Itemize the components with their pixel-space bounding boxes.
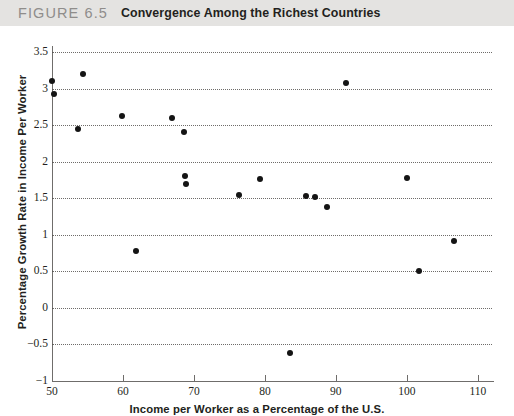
x-axis-tick-label: 110: [458, 386, 498, 398]
x-axis-title: Income per Worker as a Percentage of the…: [0, 403, 514, 415]
data-point: [324, 204, 330, 210]
data-point: [75, 126, 81, 132]
data-point: [257, 176, 263, 182]
x-axis-line: [52, 381, 494, 382]
x-axis-tick-mark: [336, 375, 337, 381]
x-axis-tick-mark: [265, 375, 266, 381]
x-axis-tick-label: 70: [174, 386, 214, 398]
gridline: [52, 162, 492, 164]
gridline: [52, 52, 492, 54]
plot-area: [52, 52, 492, 381]
gridline: [52, 271, 492, 273]
data-point: [451, 238, 457, 244]
data-point: [312, 194, 318, 200]
data-point: [182, 173, 188, 179]
y-axis-tick-label: −1: [14, 375, 48, 387]
y-axis-title: Percentage Growth Rate in Income Per Wor…: [16, 42, 28, 362]
data-point: [181, 129, 187, 135]
x-axis-tick-mark: [194, 375, 195, 381]
x-axis-tick-label: 100: [387, 386, 427, 398]
gridline: [52, 125, 492, 127]
scatter-chart: −1−0.500.511.522.533.5 5060708090100110 …: [0, 26, 514, 416]
data-point: [183, 181, 189, 187]
x-axis-tick-label: 80: [245, 386, 285, 398]
figure-caption-inner: FIGURE 6.5 Convergence Among the Richest…: [18, 0, 381, 26]
y-axis-tick-labels: −1−0.500.511.522.533.5: [8, 26, 48, 416]
figure-number-label: FIGURE 6.5: [18, 5, 108, 21]
gridline: [52, 198, 492, 200]
x-axis-tick-label: 50: [32, 386, 72, 398]
data-point: [343, 80, 349, 86]
data-point: [133, 248, 139, 254]
data-point: [51, 91, 57, 97]
data-point: [49, 78, 55, 84]
figure-caption-bar: FIGURE 6.5 Convergence Among the Richest…: [0, 0, 514, 27]
data-point: [119, 113, 125, 119]
data-point: [169, 115, 175, 121]
x-axis-tick-mark: [52, 375, 53, 381]
figure-title-label: Convergence Among the Richest Countries: [121, 6, 381, 20]
gridline: [52, 344, 492, 346]
x-axis-tick-mark: [123, 375, 124, 381]
data-point: [287, 350, 293, 356]
x-axis-tick-label: 90: [316, 386, 356, 398]
data-point: [236, 192, 242, 198]
gridline: [52, 235, 492, 237]
gridline: [52, 308, 492, 310]
x-axis-tick-label: 60: [103, 386, 143, 398]
data-point: [404, 175, 410, 181]
gridline: [52, 89, 492, 91]
data-point: [80, 71, 86, 77]
x-axis-tick-mark: [407, 375, 408, 381]
x-axis-tick-mark: [478, 375, 479, 381]
data-point: [416, 268, 422, 274]
